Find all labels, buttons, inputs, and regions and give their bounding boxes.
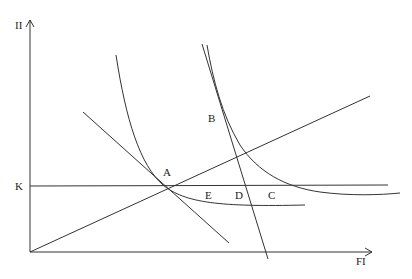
k-label: K [15, 181, 23, 192]
x-axis-label: FI [356, 256, 366, 267]
economic-diagram [0, 0, 412, 279]
steep-line [202, 44, 268, 259]
curve-left [116, 55, 305, 205]
origin-ray [30, 96, 370, 252]
point-b-label: B [208, 113, 215, 124]
point-e-label: E [205, 190, 212, 201]
k-line [30, 185, 388, 186]
curve-right [207, 45, 400, 195]
point-d-label: D [235, 190, 243, 201]
point-c-label: C [268, 190, 275, 201]
point-a-label: A [163, 167, 171, 178]
y-axis-label: II [15, 20, 22, 31]
